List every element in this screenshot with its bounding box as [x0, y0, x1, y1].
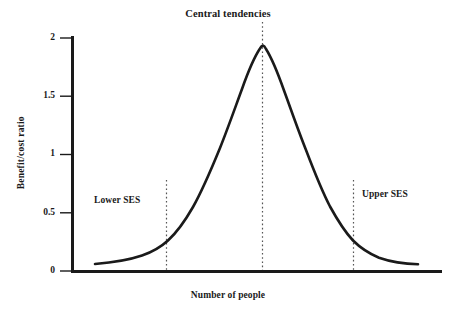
chart-title: Central tendencies: [0, 9, 456, 20]
y-tick-label-1-5: 1.5: [25, 91, 55, 101]
y-tick-label-1: 1: [25, 149, 55, 159]
y-axis-ticks: [60, 38, 72, 271]
distribution-curve: [95, 46, 418, 265]
chart-figure: Central tendencies Benefit/cost ratio Nu…: [0, 0, 456, 310]
bell-curve-plot: [0, 0, 456, 310]
y-tick-label-2: 2: [25, 33, 55, 43]
upper-ses-annotation: Upper SES: [362, 190, 408, 200]
x-axis-title: Number of people: [0, 291, 456, 301]
lower-ses-annotation: Lower SES: [94, 196, 140, 206]
y-tick-label-0-5: 0.5: [25, 208, 55, 218]
y-tick-label-0: 0: [25, 266, 55, 276]
